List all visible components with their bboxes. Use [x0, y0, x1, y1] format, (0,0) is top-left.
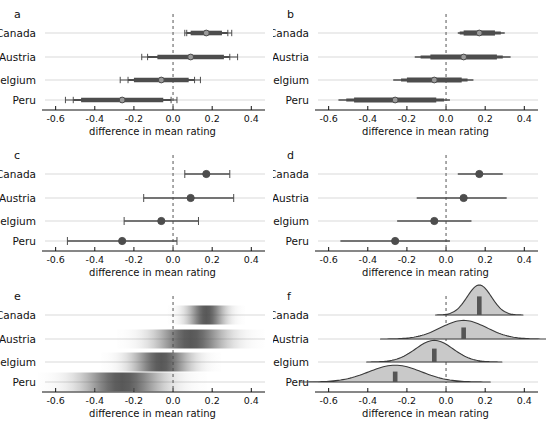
row-label-belgium: Belgium: [0, 356, 36, 368]
x-tick-label: -0.6: [46, 113, 65, 124]
x-tick-label: 0.2: [478, 113, 493, 124]
x-tick-label: 0.0: [438, 113, 453, 124]
median-bar-peru: [393, 372, 398, 382]
row-label-canada: Canada: [273, 168, 309, 180]
panel-a-plot: aCanadaAustriaBelgiumPeru-0.6-0.4-0.20.0…: [0, 0, 273, 141]
row-label-peru: Peru: [13, 94, 36, 106]
panel-letter: b: [287, 8, 294, 21]
x-axis-title: difference in mean rating: [362, 126, 489, 137]
row-label-austria: Austria: [273, 333, 309, 345]
density-gradient-belgium: [101, 353, 221, 372]
panel-letter: c: [14, 149, 20, 162]
x-tick-label: -0.4: [86, 113, 105, 124]
x-tick-label: 0.4: [517, 395, 532, 406]
median-bar-belgium: [432, 349, 437, 362]
x-tick-label: 0.2: [205, 254, 220, 265]
x-tick-label: 0.4: [517, 254, 532, 265]
x-tick-label: -0.6: [319, 395, 338, 406]
panel-f: fCanadaAustriaBelgiumPeru-0.6-0.4-0.20.0…: [273, 282, 546, 423]
panel-c-plot: cCanadaAustriaBelgiumPeru-0.6-0.4-0.20.0…: [0, 141, 273, 282]
point-estimate: [392, 237, 399, 244]
point-estimate: [119, 97, 125, 103]
x-tick-label: 0.2: [205, 395, 220, 406]
row-label-canada: Canada: [0, 309, 36, 321]
panel-a: aCanadaAustriaBelgiumPeru-0.6-0.4-0.20.0…: [0, 0, 273, 141]
x-tick-label: -0.6: [319, 254, 338, 265]
x-tick-label: 0.2: [205, 113, 220, 124]
row-label-belgium: Belgium: [273, 74, 309, 86]
x-axis-title: difference in mean rating: [89, 126, 216, 137]
row-label-belgium: Belgium: [273, 215, 309, 227]
figure-uncertainty-visualizations: aCanadaAustriaBelgiumPeru-0.6-0.4-0.20.0…: [0, 0, 546, 424]
panel-b: bCanadaAustriaBelgiumPeru-0.6-0.4-0.20.0…: [273, 0, 546, 141]
point-estimate: [431, 217, 438, 224]
panel-b-plot: bCanadaAustriaBelgiumPeru-0.6-0.4-0.20.0…: [273, 0, 546, 141]
row-label-austria: Austria: [0, 333, 36, 345]
x-tick-label: -0.2: [398, 113, 417, 124]
x-tick-label: 0.4: [244, 254, 259, 265]
point-estimate: [158, 217, 165, 224]
density-gradient-canada: [167, 306, 245, 325]
row-label-austria: Austria: [273, 51, 309, 63]
x-tick-label: -0.4: [359, 113, 378, 124]
x-tick-label: -0.2: [398, 395, 417, 406]
x-tick-label: -0.6: [46, 254, 65, 265]
panel-c: cCanadaAustriaBelgiumPeru-0.6-0.4-0.20.0…: [0, 141, 273, 282]
point-estimate: [461, 54, 467, 60]
panel-e-plot: eCanadaAustriaBelgiumPeru-0.6-0.4-0.20.0…: [0, 282, 273, 423]
median-bar-austria: [461, 327, 466, 339]
point-estimate: [203, 30, 209, 36]
panel-d: dCanadaAustriaBelgiumPeru-0.6-0.4-0.20.0…: [273, 141, 546, 282]
x-tick-label: -0.6: [319, 113, 338, 124]
x-tick-label: 0.0: [438, 395, 453, 406]
density-gradient-austria: [117, 330, 265, 349]
x-axis-title: difference in mean rating: [362, 267, 489, 278]
row-label-peru: Peru: [286, 94, 309, 106]
x-tick-label: 0.0: [165, 395, 180, 406]
panel-letter: a: [14, 8, 21, 21]
x-tick-label: -0.4: [359, 395, 378, 406]
x-tick-label: -0.2: [125, 395, 144, 406]
x-tick-label: 0.4: [517, 113, 532, 124]
point-estimate: [431, 77, 437, 83]
panel-d-plot: dCanadaAustriaBelgiumPeru-0.6-0.4-0.20.0…: [273, 141, 546, 282]
panel-letter: f: [287, 290, 292, 303]
x-tick-label: -0.6: [46, 395, 65, 406]
row-label-austria: Austria: [0, 51, 36, 63]
row-label-belgium: Belgium: [0, 215, 36, 227]
panel-e: eCanadaAustriaBelgiumPeru-0.6-0.4-0.20.0…: [0, 282, 273, 423]
x-axis-title: difference in mean rating: [89, 408, 216, 419]
x-tick-label: -0.4: [359, 254, 378, 265]
row-label-austria: Austria: [0, 192, 36, 204]
point-estimate: [392, 97, 398, 103]
x-tick-label: -0.2: [125, 113, 144, 124]
point-estimate: [476, 30, 482, 36]
row-label-canada: Canada: [273, 309, 309, 321]
x-tick-label: -0.4: [86, 254, 105, 265]
row-label-belgium: Belgium: [273, 356, 309, 368]
point-estimate: [476, 170, 483, 177]
x-tick-label: 0.4: [244, 113, 259, 124]
point-estimate: [187, 194, 194, 201]
x-axis-title: difference in mean rating: [89, 267, 216, 278]
x-tick-label: 0.0: [165, 254, 180, 265]
x-tick-label: -0.2: [398, 254, 417, 265]
panel-letter: e: [14, 290, 21, 303]
row-label-belgium: Belgium: [0, 74, 36, 86]
x-tick-label: 0.0: [438, 254, 453, 265]
point-estimate: [460, 194, 467, 201]
x-axis-title: difference in mean rating: [362, 408, 489, 419]
row-label-peru: Peru: [13, 376, 36, 388]
x-tick-label: -0.2: [125, 254, 144, 265]
x-tick-label: 0.4: [244, 395, 259, 406]
point-estimate: [158, 77, 164, 83]
row-label-peru: Peru: [13, 235, 36, 247]
x-tick-label: 0.2: [478, 254, 493, 265]
row-label-peru: Peru: [286, 235, 309, 247]
row-label-canada: Canada: [273, 27, 309, 39]
row-label-canada: Canada: [0, 168, 36, 180]
x-tick-label: -0.4: [86, 395, 105, 406]
point-estimate: [203, 170, 210, 177]
panel-letter: d: [287, 149, 294, 162]
row-label-austria: Austria: [273, 192, 309, 204]
